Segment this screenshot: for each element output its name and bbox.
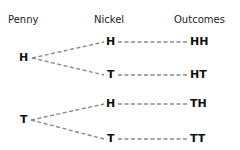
header-nickel: Nickel: [94, 14, 124, 25]
tree-diagram: Penny Nickel Outcomes H T H T H T HH HT …: [0, 0, 240, 150]
nickel-node-tt: T: [107, 133, 115, 145]
nickel-node-hh: H: [106, 36, 115, 48]
outcome-th: TH: [190, 98, 207, 110]
header-outcomes: Outcomes: [174, 14, 225, 25]
nickel-node-th: H: [106, 98, 115, 110]
outcome-hh: HH: [190, 36, 208, 48]
outcome-ht: HT: [190, 69, 207, 81]
outcome-tt: TT: [190, 133, 205, 145]
penny-node-t: T: [20, 114, 28, 126]
header-penny: Penny: [8, 14, 38, 25]
nickel-node-ht: T: [107, 69, 115, 81]
penny-node-h: H: [19, 52, 28, 64]
